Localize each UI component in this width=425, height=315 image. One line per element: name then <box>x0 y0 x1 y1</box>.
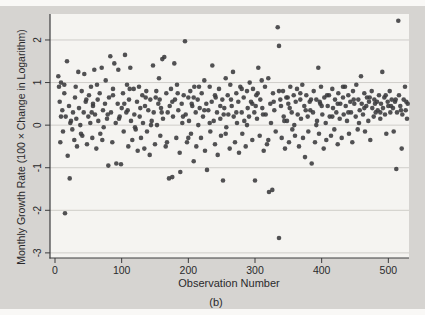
data-point <box>85 142 90 147</box>
data-point <box>250 138 255 143</box>
data-point <box>88 121 93 126</box>
data-point <box>301 136 306 141</box>
data-point <box>306 129 311 134</box>
data-point <box>363 129 368 134</box>
data-point <box>369 89 374 94</box>
data-point <box>325 93 330 98</box>
data-point <box>367 95 372 100</box>
data-point <box>110 140 115 145</box>
data-point <box>192 85 197 90</box>
data-point <box>159 106 164 111</box>
data-point <box>193 110 198 115</box>
data-point <box>261 148 266 153</box>
data-point <box>61 129 66 134</box>
data-point <box>253 104 258 109</box>
data-point <box>191 159 196 164</box>
data-point <box>378 117 383 122</box>
data-point <box>378 110 383 115</box>
data-point <box>354 82 359 87</box>
data-point <box>277 89 282 94</box>
data-point <box>67 176 72 181</box>
data-point <box>170 99 175 104</box>
data-point <box>143 104 148 109</box>
data-point <box>321 146 326 151</box>
data-point <box>115 102 120 107</box>
data-point <box>293 99 298 104</box>
data-point <box>133 125 138 130</box>
data-point <box>137 114 142 119</box>
data-point <box>282 119 287 124</box>
data-point <box>234 110 239 115</box>
data-point <box>295 87 300 92</box>
data-point <box>403 85 408 90</box>
data-point <box>255 91 260 96</box>
data-point <box>162 55 167 60</box>
data-point <box>149 119 154 124</box>
data-point <box>269 121 274 126</box>
data-point <box>286 102 291 107</box>
data-point <box>287 106 292 111</box>
data-point <box>225 93 230 98</box>
data-point <box>384 131 389 136</box>
data-point <box>304 93 309 98</box>
data-point <box>65 59 70 64</box>
data-point <box>218 104 223 109</box>
data-point <box>265 142 270 147</box>
data-point <box>362 106 367 111</box>
data-point <box>148 97 153 102</box>
data-point <box>330 87 335 92</box>
data-point <box>135 99 140 104</box>
data-point <box>167 104 172 109</box>
scatter-plot: 210-1-2-3 0100200300400500 Monthly Growt… <box>0 0 425 315</box>
data-point <box>352 102 357 107</box>
data-point <box>223 76 228 81</box>
data-point <box>325 104 330 109</box>
data-point <box>156 102 161 107</box>
data-point <box>224 125 229 130</box>
data-point <box>335 102 340 107</box>
data-point <box>389 104 394 109</box>
data-point <box>324 138 329 143</box>
data-point <box>343 104 348 109</box>
y-tick-label: -1 <box>32 163 43 172</box>
data-point <box>391 129 396 134</box>
data-point <box>141 121 146 126</box>
data-point <box>329 134 334 139</box>
data-point <box>359 102 364 107</box>
data-point <box>319 104 324 109</box>
data-point <box>170 175 175 180</box>
data-point <box>70 127 75 132</box>
data-point <box>404 99 409 104</box>
data-point <box>330 114 335 119</box>
data-point <box>277 236 282 241</box>
data-point <box>205 168 210 173</box>
data-point <box>279 104 284 109</box>
data-point <box>201 114 206 119</box>
x-tick-label: 100 <box>113 264 131 276</box>
data-point <box>231 114 236 119</box>
data-point <box>165 140 170 145</box>
data-point <box>245 123 250 128</box>
data-point <box>153 95 158 100</box>
data-point <box>119 162 124 167</box>
y-axis-title: Monthly Growth Rate (100 × Change in Log… <box>15 29 27 265</box>
data-point <box>187 119 192 124</box>
data-point <box>188 89 193 94</box>
data-point <box>381 106 386 111</box>
data-point <box>311 89 316 94</box>
data-point <box>111 87 116 92</box>
data-point <box>362 91 367 96</box>
data-point <box>157 97 162 102</box>
data-point <box>229 104 234 109</box>
data-point <box>400 112 405 117</box>
data-point <box>215 110 220 115</box>
data-point <box>209 99 214 104</box>
data-point <box>111 93 116 98</box>
data-point <box>207 121 212 126</box>
data-point <box>191 95 196 100</box>
data-point <box>181 93 186 98</box>
data-point <box>218 117 223 122</box>
figure-caption: (b) <box>209 296 222 308</box>
data-point <box>199 91 204 96</box>
data-point <box>153 142 158 147</box>
